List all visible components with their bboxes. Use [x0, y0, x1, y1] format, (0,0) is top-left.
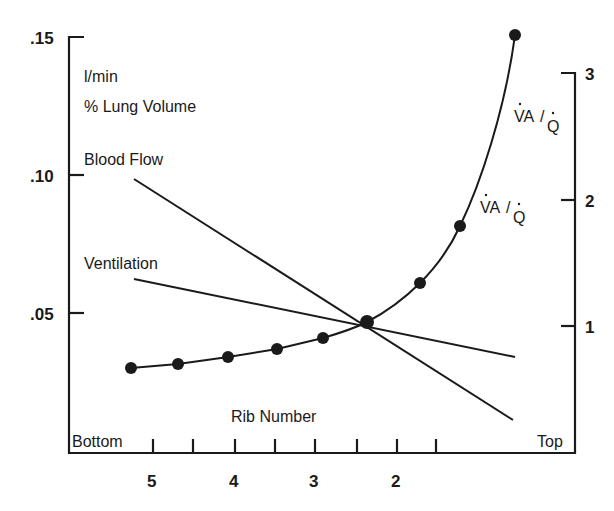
left-tick-label: .10: [30, 167, 54, 186]
vaq-markers: [125, 29, 521, 374]
ventilation-line: [134, 279, 515, 357]
series-label-blood-flow: Blood Flow: [84, 151, 164, 168]
x-tick-label: 3: [309, 472, 318, 491]
blood-flow-line: [134, 179, 513, 420]
series-label-ventilation: Ventilation: [84, 255, 158, 272]
left-tick-label: .05: [30, 305, 54, 324]
svg-text:Q: Q: [513, 209, 525, 226]
x-tick-label: 5: [147, 472, 156, 491]
x-end-label-top: Top: [537, 433, 563, 450]
chart-canvas: .15 .10 .05 3 2 1 5 4 3 2 l/min % Lung V…: [0, 0, 614, 511]
x-axis-title: Rib Number: [231, 408, 317, 425]
bottom-ticks: [153, 439, 436, 453]
x-tick-label: 4: [229, 472, 239, 491]
svg-text:VA: VA: [480, 199, 500, 216]
x-tick-label: 2: [391, 472, 400, 491]
right-axis-title-vaq: VA / Q: [514, 103, 559, 135]
svg-text:/: /: [506, 199, 511, 216]
svg-text:/: /: [540, 108, 545, 125]
right-tick-label: 3: [585, 65, 594, 84]
curve-label-vaq: VA / Q: [480, 194, 525, 226]
right-tick-label: 1: [585, 318, 594, 337]
left-tick-label: .15: [30, 29, 54, 48]
right-tick-label: 2: [585, 192, 594, 211]
svg-text:VA: VA: [514, 108, 534, 125]
units-label-lmin: l/min: [84, 68, 118, 85]
x-end-label-bottom: Bottom: [72, 433, 123, 450]
units-label-lung-volume: % Lung Volume: [84, 98, 196, 115]
svg-text:Q: Q: [547, 118, 559, 135]
